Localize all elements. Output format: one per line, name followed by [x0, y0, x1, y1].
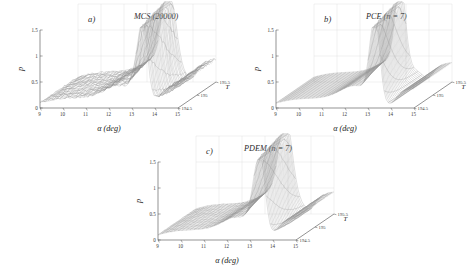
svg-text:194.5: 194.5 [300, 238, 311, 243]
svg-text:1.5: 1.5 [267, 27, 274, 33]
svg-text:1.5: 1.5 [31, 27, 38, 33]
svg-text:194.5: 194.5 [182, 106, 193, 111]
svg-text:13: 13 [247, 243, 253, 249]
svg-text:1: 1 [35, 53, 38, 59]
svg-text:9: 9 [156, 243, 159, 249]
svg-text:195: 195 [201, 93, 209, 98]
svg-text:194.5: 194.5 [418, 106, 429, 111]
svg-text:0.5: 0.5 [31, 79, 38, 85]
svg-text:1: 1 [271, 53, 274, 59]
svg-text:195: 195 [319, 225, 327, 230]
svg-text:11: 11 [83, 111, 88, 117]
panel-a-plot: 00.511.59101112131415194.5195195.5α (deg… [0, 0, 236, 140]
svg-text:p: p [16, 67, 25, 72]
svg-text:12: 12 [224, 243, 230, 249]
panel-b-plot: 00.511.59101112131415194.5195195.5α (deg… [236, 0, 472, 140]
panel-c: c) PDEM (n = 7) 00.511.59101112131415194… [118, 132, 354, 272]
svg-text:9: 9 [274, 111, 277, 117]
svg-text:0: 0 [35, 105, 38, 111]
svg-text:14: 14 [152, 111, 158, 117]
svg-text:11: 11 [201, 243, 206, 249]
panel-b: b) PCE (n = 7) 00.511.59101112131415194.… [236, 0, 472, 140]
svg-text:0: 0 [271, 105, 274, 111]
svg-text:p: p [252, 67, 261, 72]
svg-text:9: 9 [38, 111, 41, 117]
svg-text:10: 10 [296, 111, 302, 117]
svg-text:1: 1 [153, 185, 156, 191]
svg-text:1.5: 1.5 [149, 159, 156, 165]
svg-text:10: 10 [178, 243, 184, 249]
svg-text:15: 15 [411, 111, 417, 117]
svg-text:14: 14 [270, 243, 276, 249]
svg-text:p: p [134, 199, 143, 204]
svg-text:0.5: 0.5 [267, 79, 274, 85]
svg-text:13: 13 [129, 111, 135, 117]
svg-text:0.5: 0.5 [149, 211, 156, 217]
svg-text:13: 13 [365, 111, 371, 117]
svg-text:α (deg): α (deg) [215, 256, 239, 265]
svg-text:0: 0 [153, 237, 156, 243]
panel-a: a) MCS (20000) 00.511.59101112131415194.… [0, 0, 236, 140]
svg-text:12: 12 [106, 111, 112, 117]
svg-text:12: 12 [342, 111, 348, 117]
figure-root: a) MCS (20000) 00.511.59101112131415194.… [0, 0, 472, 272]
svg-text:15: 15 [293, 243, 299, 249]
svg-text:11: 11 [319, 111, 324, 117]
svg-text:10: 10 [60, 111, 66, 117]
svg-text:195: 195 [437, 93, 445, 98]
svg-text:15: 15 [175, 111, 181, 117]
panel-c-plot: 00.511.59101112131415194.5195195.5α (deg… [118, 132, 354, 272]
svg-text:14: 14 [388, 111, 394, 117]
